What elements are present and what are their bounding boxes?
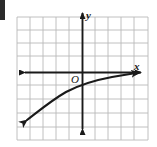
- x-axis-label: x: [133, 60, 140, 72]
- coordinate-plane: y x O: [0, 0, 157, 147]
- y-axis-label: y: [84, 9, 91, 21]
- origin-label: O: [71, 73, 79, 85]
- graph-figure: y x O: [0, 0, 157, 147]
